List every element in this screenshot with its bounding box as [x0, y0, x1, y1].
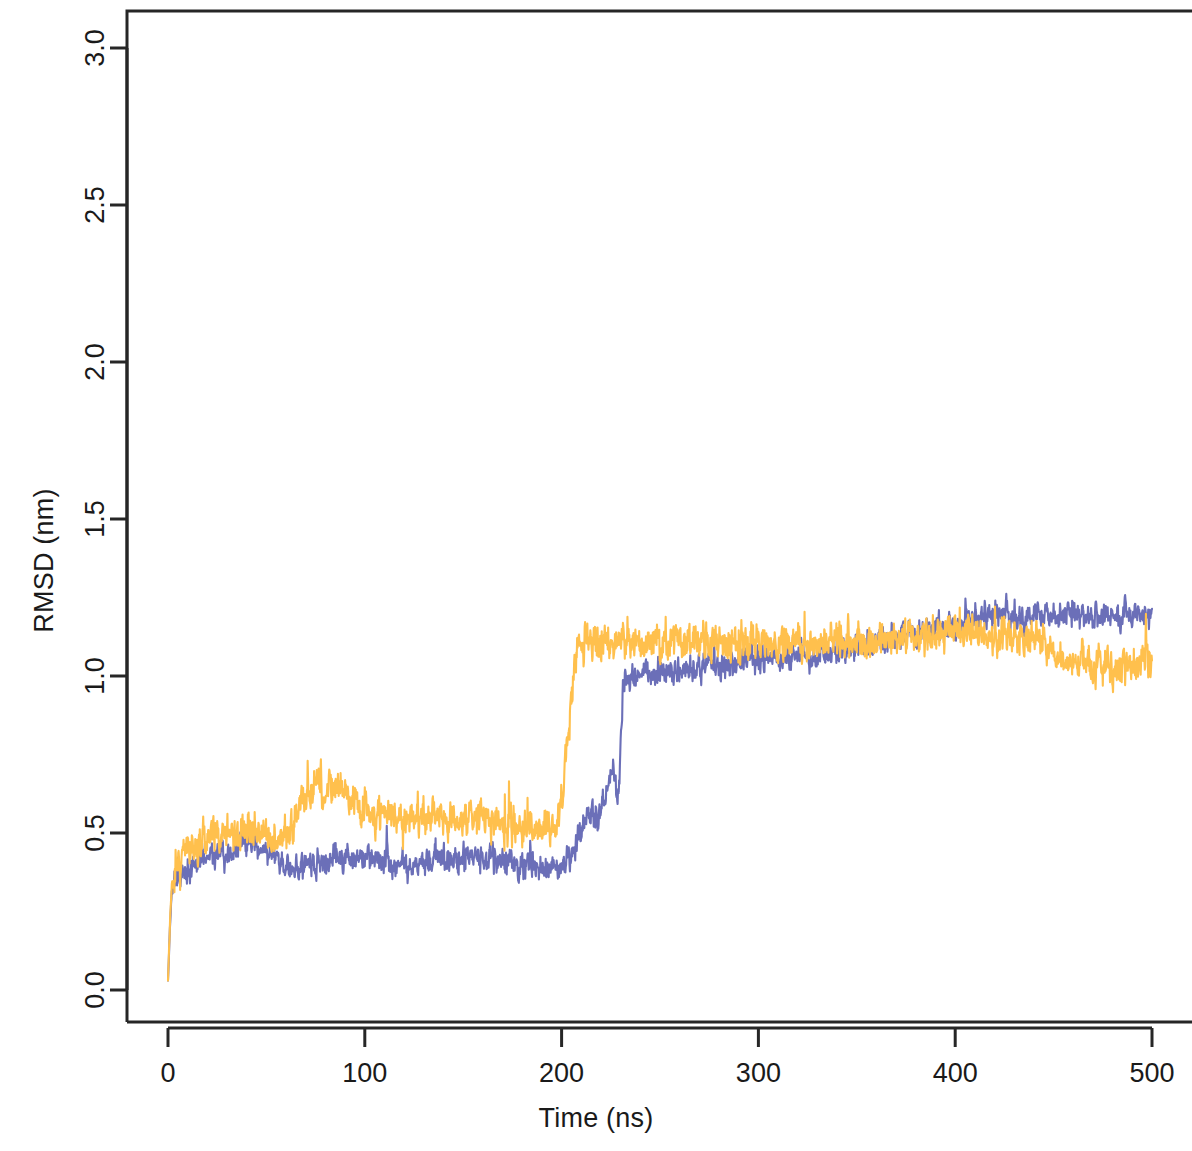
y-tick-label: 1.5 — [80, 500, 110, 538]
x-tick-label: 400 — [933, 1058, 978, 1088]
y-tick-label: 3.0 — [80, 29, 110, 67]
plot-background — [0, 0, 1192, 1151]
x-tick-label: 300 — [736, 1058, 781, 1088]
y-tick-label: 2.0 — [80, 343, 110, 381]
x-tick-label: 500 — [1129, 1058, 1174, 1088]
rmsd-time-plot: 0.00.51.01.52.02.53.0 0100200300400500 — [0, 0, 1192, 1151]
chart-figure: 0.00.51.01.52.02.53.0 0100200300400500 R… — [0, 0, 1192, 1151]
y-axis-label: RMSD (nm) — [29, 451, 60, 671]
y-tick-label: 1.0 — [80, 657, 110, 695]
y-tick-label: 2.5 — [80, 186, 110, 224]
y-tick-label: 0.0 — [80, 971, 110, 1009]
y-tick-label: 0.5 — [80, 814, 110, 852]
x-tick-label: 0 — [160, 1058, 175, 1088]
x-tick-label: 200 — [539, 1058, 584, 1088]
x-tick-label: 100 — [342, 1058, 387, 1088]
x-axis-label: Time (ns) — [0, 1103, 1192, 1134]
